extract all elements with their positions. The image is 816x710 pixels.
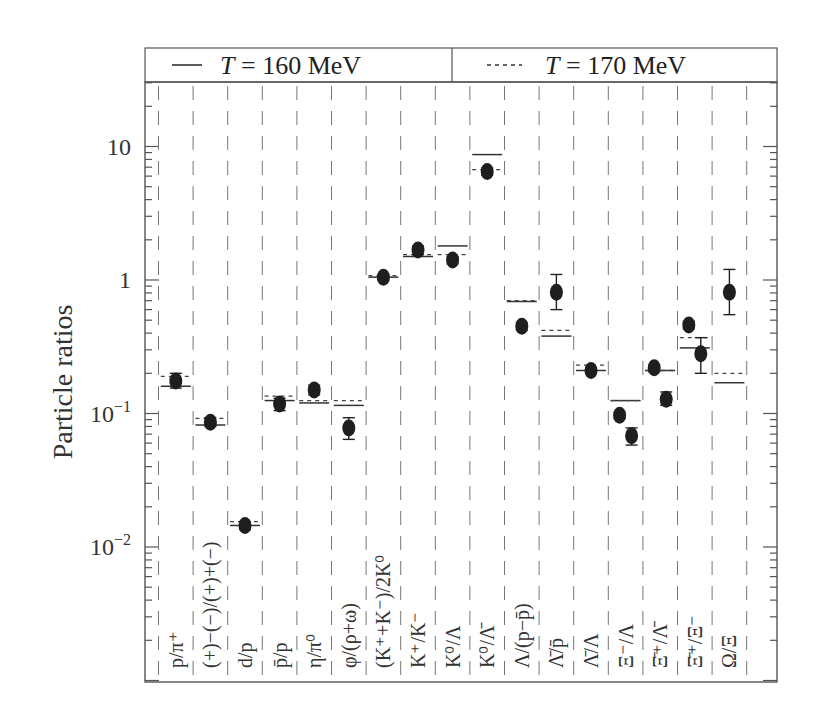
data-point xyxy=(694,345,707,362)
data-point xyxy=(273,395,286,412)
category-label: (K⁺+K⁻)/2K⁰ xyxy=(372,555,395,669)
y-tick-label: 1 xyxy=(119,267,131,293)
category-label: η/π⁰ xyxy=(303,634,326,668)
data-point xyxy=(446,252,459,269)
y-tick-label: 10−1 xyxy=(90,398,131,427)
category-labels: p/π⁺(+)−(−)/(+)+(−)d/pp̄/pη/π⁰φ/(ρ+ω)(K⁺… xyxy=(165,541,741,668)
y-tick-label: 10−2 xyxy=(90,531,131,560)
legend-label-160: T = 160 MeV xyxy=(220,51,361,80)
data-point xyxy=(239,517,252,534)
data-point xyxy=(723,284,736,301)
category-label: Ξ̄⁺/Λ̄ xyxy=(649,620,671,668)
y-axis-label: Particle ratios xyxy=(47,305,78,460)
category-label: (+)−(−)/(+)+(−) xyxy=(199,541,222,668)
data-point xyxy=(377,269,390,286)
data-point xyxy=(550,284,563,301)
category-label: d/p xyxy=(234,642,257,668)
legend: T = 160 MeV T = 170 MeV xyxy=(145,48,777,82)
data-point xyxy=(308,381,321,398)
category-label: K⁰/Λ xyxy=(442,625,464,668)
data-point xyxy=(169,373,182,390)
data-point xyxy=(682,317,695,334)
data-point xyxy=(585,362,598,379)
category-label: Λ̄/Λ xyxy=(580,633,602,668)
category-label: φ/(ρ+ω) xyxy=(338,603,361,668)
model-lines xyxy=(161,155,745,526)
data-point xyxy=(648,359,661,376)
category-label: Λ/(p−p̄) xyxy=(511,603,534,668)
category-label: K⁺/K⁻ xyxy=(407,612,429,668)
legend-label-170: T = 170 MeV xyxy=(545,51,686,80)
data-point xyxy=(342,419,355,436)
category-separators xyxy=(159,86,747,678)
y-tick-label: 10 xyxy=(107,134,131,160)
data-point xyxy=(412,241,425,258)
data-point xyxy=(204,414,217,431)
data-point xyxy=(481,163,494,180)
data-points xyxy=(169,163,736,534)
category-label: Ξ⁻/Λ xyxy=(615,624,637,668)
data-point xyxy=(613,407,626,424)
category-label: p̄/p xyxy=(269,642,292,668)
category-label: K⁰/Λ̄ xyxy=(476,621,498,668)
data-point xyxy=(660,391,673,408)
data-point xyxy=(515,318,528,335)
category-label: Λ̄/p̄ xyxy=(545,638,568,668)
particle-ratio-chart: T = 160 MeV T = 170 MeV Particle ratios … xyxy=(0,0,816,710)
category-label: p/π⁺ xyxy=(165,631,188,668)
category-label: Ω/Ξ xyxy=(718,635,740,668)
category-label: Ξ̄⁺/Ξ⁻ xyxy=(684,615,706,668)
data-point xyxy=(625,427,638,444)
plot-frame xyxy=(145,82,777,682)
